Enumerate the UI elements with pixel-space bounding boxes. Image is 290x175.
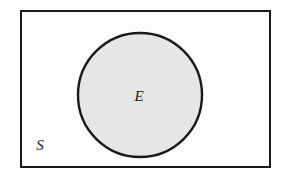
event-set-label: E xyxy=(133,88,143,104)
venn-diagram-svg: E S xyxy=(0,0,290,175)
venn-diagram-canvas: E S xyxy=(0,0,290,175)
sample-space-label: S xyxy=(36,137,44,153)
